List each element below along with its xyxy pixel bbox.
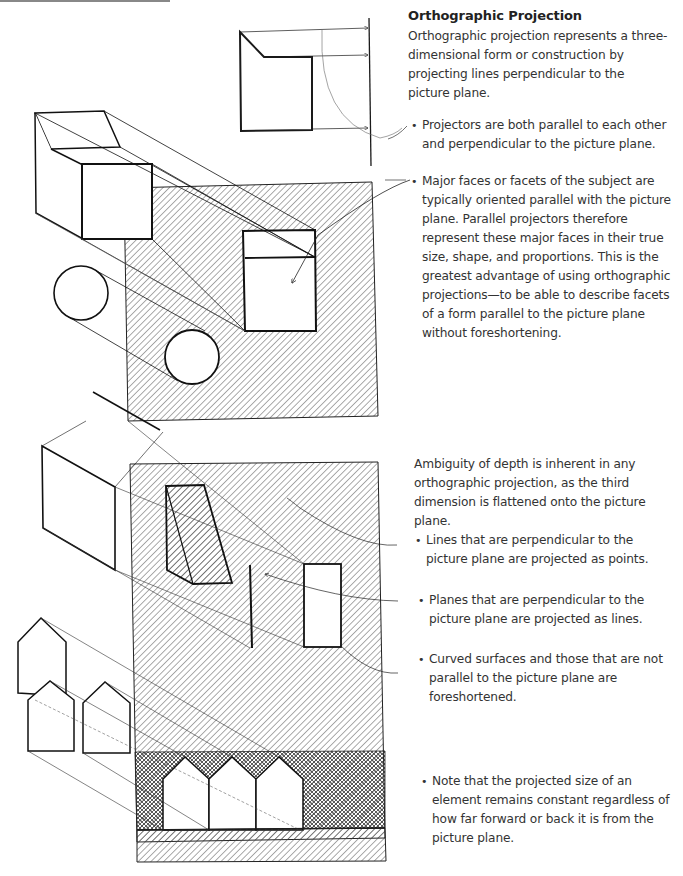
block-cylinders-projection <box>35 111 410 430</box>
annotation-major-faces: Major faces or facets of the subject are… <box>422 172 678 343</box>
page-title: Orthographic Projection <box>408 8 582 23</box>
annotation-ambiguity: Ambiguity of depth is inherent in any or… <box>414 455 678 531</box>
annotation-planes-lines: Planes that are perpendicular to the pic… <box>429 591 679 629</box>
annotation-note: Note that the projected size of an eleme… <box>432 772 677 848</box>
text-leaders <box>385 126 407 180</box>
profile-diagram <box>240 18 402 166</box>
annotation-curved: Curved surfaces and those that are not p… <box>429 650 679 707</box>
planes-houses-projection <box>18 421 398 862</box>
annotation-projectors: Projectors are both parallel to each oth… <box>422 116 672 154</box>
intro-text: Orthographic projection represents a thr… <box>408 27 668 103</box>
annotation-lines-points: Lines that are perpendicular to the pict… <box>426 531 676 569</box>
